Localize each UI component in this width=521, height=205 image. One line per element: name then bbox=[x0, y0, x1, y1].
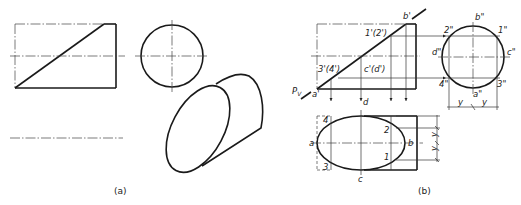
label-1-top: 1 bbox=[384, 152, 389, 162]
label-4-top: 4 bbox=[323, 115, 328, 125]
label-a-side: a" bbox=[473, 89, 482, 99]
label-dim-y2: y bbox=[481, 97, 488, 107]
caption-a: (a) bbox=[114, 186, 127, 196]
label-4-side: 4" bbox=[439, 79, 448, 89]
label-1-side: 1" bbox=[498, 25, 507, 35]
label-b-top: b bbox=[408, 138, 413, 148]
label-a-top: a bbox=[309, 138, 314, 148]
label-d-top: d bbox=[363, 97, 369, 107]
label-b-side: b" bbox=[475, 12, 484, 22]
front-view-b: b' 1'(2') 3'(4') c'(d') a' PV bbox=[292, 9, 426, 99]
top-view-b: y y a b d c 4 2 1 3 bbox=[309, 97, 440, 184]
pictorial-cylinder bbox=[153, 74, 263, 182]
label-c-side: c" bbox=[507, 47, 516, 57]
label-3-side: 3" bbox=[497, 79, 506, 89]
label-3-top: 3 bbox=[323, 162, 328, 172]
side-view-a bbox=[135, 20, 208, 93]
side-view-b: b" 2" 1" d" c" 4" 3" a" y y bbox=[432, 12, 516, 110]
front-view-a bbox=[10, 24, 125, 88]
label-c-top: c bbox=[358, 174, 363, 184]
part-a: (a) bbox=[10, 20, 263, 196]
label-top-dim-y2: y bbox=[429, 145, 439, 152]
label-d-side: d" bbox=[432, 47, 441, 57]
label-1-2-front: 1'(2') bbox=[365, 28, 387, 38]
label-a-prime: a' bbox=[312, 89, 320, 99]
label-2-side: 2" bbox=[444, 25, 453, 35]
cylinder-section-drawing: (a) b' 1'(2') 3'(4') c' bbox=[0, 0, 521, 205]
label-dim-y1: y bbox=[457, 97, 464, 107]
label-b-prime: b' bbox=[403, 11, 411, 21]
label-pv: PV bbox=[292, 86, 302, 97]
label-3-4-front: 3'(4') bbox=[318, 64, 340, 74]
label-2-top: 2 bbox=[384, 125, 389, 135]
caption-b: (b) bbox=[418, 186, 431, 196]
label-c-d-front: c'(d') bbox=[364, 64, 385, 74]
part-b: b' 1'(2') 3'(4') c'(d') a' PV b" 2" bbox=[292, 9, 516, 196]
label-top-dim-y1: y bbox=[429, 131, 439, 138]
